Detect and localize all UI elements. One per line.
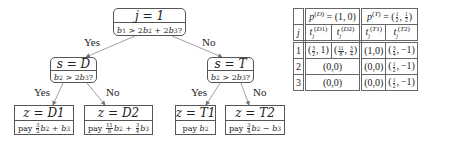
node-s-d: s = D b2 > 2b3?: [50, 57, 97, 83]
group-header-t: p(T) = (12, 12): [361, 9, 418, 25]
col-header-j: j: [294, 25, 305, 42]
root-title: j = 1: [114, 9, 185, 23]
node-s-t-question: b2 > 2b3?: [208, 71, 253, 84]
cell-t1: (1,0): [361, 42, 386, 59]
leaf-d1-payoff: pay 32b2 + b3: [15, 121, 73, 136]
group-header-row: p(D) = (1, 0) p(T) = (12, 12): [294, 9, 418, 25]
table-row: 3 (0,0) (0,0) (12, −1): [294, 75, 418, 91]
column-header-row: j tj(D1) tj(D2) tj(T1) tj(T2): [294, 25, 418, 42]
leaf-d1: z = D1 pay 32b2 + b3: [14, 105, 74, 135]
cell-d: (0,0): [305, 75, 361, 91]
leaf-t1-title: z = T1: [176, 106, 215, 121]
edge-label-no: No: [253, 86, 266, 98]
leaf-d2-title: z = D2: [85, 106, 152, 121]
edge-label-no: No: [202, 36, 215, 48]
cell-t2: (34, −1): [386, 42, 418, 59]
row-j: 3: [294, 75, 305, 91]
cell-d1: (32, 1): [305, 42, 332, 59]
table-row: 2 (0,0) (0,0) (12, −1): [294, 59, 418, 75]
leaf-t1: z = T1 pay b2: [175, 105, 216, 135]
leaf-t2-title: z = T2: [226, 106, 284, 121]
col-header-t2: tj(T2): [386, 25, 418, 42]
leaf-d2: z = D2 pay 118b2 + 34b3: [84, 105, 153, 135]
node-s-d-title: s = D: [51, 58, 96, 71]
corner-cell: [294, 9, 305, 25]
type-table: p(D) = (1, 0) p(T) = (12, 12) j tj(D1) t…: [293, 8, 418, 91]
cell-d: (0,0): [305, 59, 361, 75]
col-header-d2: tj(D2): [331, 25, 360, 42]
leaf-d2-payoff: pay 118b2 + 34b3: [85, 121, 152, 136]
cell-t2: (12, −1): [386, 59, 418, 75]
leaf-t1-payoff: pay b2: [176, 121, 215, 136]
root-question: b1 > 2b2 + 2b3?: [114, 23, 185, 37]
col-header-d1: tj(D1): [305, 25, 332, 42]
edge-label-yes: Yes: [191, 86, 207, 98]
node-s-d-question: b2 > 2b3?: [51, 71, 96, 84]
edge-label-yes: Yes: [34, 86, 50, 98]
group-header-d: p(D) = (1, 0): [305, 9, 361, 25]
col-header-t1: tj(T1): [361, 25, 386, 42]
cell-t2: (12, −1): [386, 75, 418, 91]
row-j: 2: [294, 59, 305, 75]
cell-d2: (118, 34): [331, 42, 360, 59]
table-row: 1 (32, 1) (118, 34) (1,0) (34, −1): [294, 42, 418, 59]
cell-t1: (0,0): [361, 59, 386, 75]
leaf-d1-title: z = D1: [15, 106, 73, 121]
node-s-t: s = T b2 > 2b3?: [207, 57, 254, 83]
node-s-t-title: s = T: [208, 58, 253, 71]
leaf-t2: z = T2 pay 34b2 − b3: [225, 105, 285, 135]
edge-label-yes: Yes: [84, 36, 100, 48]
leaf-t2-payoff: pay 34b2 − b3: [226, 121, 284, 136]
root-node: j = 1 b1 > 2b2 + 2b3?: [113, 8, 186, 36]
row-j: 1: [294, 42, 305, 59]
cell-t1: (0,0): [361, 75, 386, 91]
edge-label-no: No: [106, 86, 119, 98]
